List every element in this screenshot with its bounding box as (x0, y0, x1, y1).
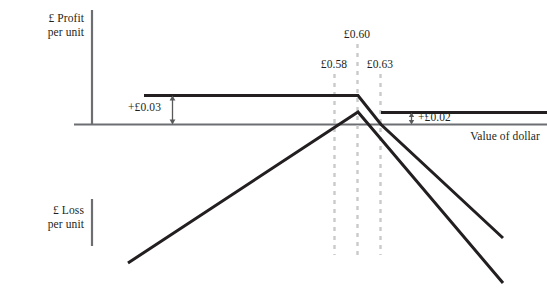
chart-plot-area (0, 0, 547, 289)
y-axis-label-loss: £ Lossper unit (0, 204, 84, 231)
annotation-label-premium: +£0.03 (99, 101, 161, 115)
tick-label-063: £0.63 (340, 58, 420, 72)
chart-figure: £ Profitper unit £ Lossper unit Value of… (0, 0, 547, 289)
y-axis-label-profit-line2: per unit (48, 26, 84, 38)
y-axis-label-profit-line1: £ Profit (48, 12, 84, 24)
measure-arrow-002 (409, 113, 414, 125)
measure-arrow-003 (170, 96, 176, 125)
y-axis-label-loss-line1: £ Loss (53, 204, 84, 216)
tick-label-060: £0.60 (317, 28, 397, 42)
annotation-label-net-profit: +£0.02 (418, 111, 488, 125)
y-axis-label-profit: £ Profitper unit (0, 12, 84, 39)
x-axis-label: Value of dollar (400, 130, 540, 144)
y-axis-label-loss-line2: per unit (48, 218, 84, 230)
